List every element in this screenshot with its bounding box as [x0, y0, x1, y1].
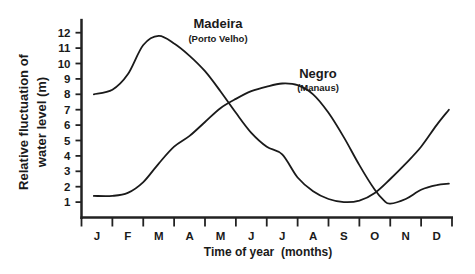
- series-lines: [94, 36, 449, 204]
- x-tick-label: N: [402, 230, 410, 242]
- y-tick-label: 3: [64, 165, 70, 177]
- x-tick-label: M: [154, 230, 164, 242]
- y-tick-label: 5: [64, 135, 71, 147]
- y-tick-label: 2: [64, 181, 70, 193]
- madeira-sublabel: (Porto Velho): [188, 33, 247, 44]
- x-tick-label: O: [370, 230, 379, 242]
- y-tick-label: 1: [64, 196, 71, 208]
- negro-label: Negro: [299, 66, 337, 81]
- y-tick-label: 7: [64, 104, 70, 116]
- y-axis: 123456789101112: [58, 19, 82, 219]
- y-tick-label: 4: [64, 150, 71, 162]
- y-tick-label: 12: [58, 27, 71, 39]
- x-tick-label: J: [94, 230, 100, 242]
- x-tick-label: F: [124, 230, 131, 242]
- y-tick-label: 6: [64, 119, 70, 131]
- x-tick-label: J: [279, 230, 285, 242]
- x-tick-label: A: [309, 230, 317, 242]
- negro-sublabel: (Manaus): [297, 82, 339, 93]
- y-tick-label: 8: [64, 88, 71, 100]
- x-tick-label: A: [185, 230, 193, 242]
- y-axis-label-line1: Relative fluctuation of: [16, 53, 31, 189]
- x-tick-label: J: [248, 230, 254, 242]
- y-tick-label: 11: [58, 42, 71, 54]
- y-tick-label: 9: [64, 73, 70, 85]
- x-tick-label: S: [340, 230, 348, 242]
- x-axis: JFMAMJJASOND: [81, 218, 454, 242]
- madeira-label: Madeira: [193, 16, 243, 31]
- x-tick-label: M: [216, 230, 226, 242]
- y-axis-label-line2: water level (m): [34, 77, 49, 168]
- x-axis-label: Time of year (months): [204, 245, 332, 259]
- water-level-chart: 123456789101112 JFMAMJJASOND Relative fl…: [0, 0, 475, 274]
- x-tick-label: D: [432, 230, 440, 242]
- y-tick-label: 10: [58, 58, 71, 70]
- negro-line: [94, 83, 449, 203]
